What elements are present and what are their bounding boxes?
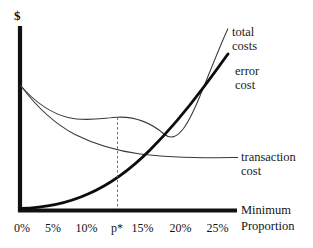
x-axis-title-line1: Minimum xyxy=(241,203,291,217)
series-label-error-cost-line1: error xyxy=(235,64,259,78)
x-tick-label-6: 25% xyxy=(203,222,232,235)
x-tick-label-optimum: p* xyxy=(106,222,128,235)
x-tick-label-2: 10% xyxy=(72,222,101,235)
series-label-transaction-cost-line1: transaction xyxy=(241,150,296,164)
series-error-cost-curve xyxy=(21,54,229,209)
x-axis-title-line2: Proportion xyxy=(241,219,294,233)
x-tick-label-0: 0% xyxy=(10,222,34,235)
x-tick-label-4: 15% xyxy=(128,222,157,235)
x-tick-label-5: 20% xyxy=(166,222,195,235)
series-label-total-costs-line2: costs xyxy=(232,39,257,53)
series-label-transaction-cost-line2: cost xyxy=(241,164,261,178)
y-axis-label: $ xyxy=(14,8,21,24)
series-label-total-costs-line1: total xyxy=(232,25,254,39)
cost-tradeoff-figure: $ total costs error cost transaction cos… xyxy=(0,0,313,248)
series-label-error-cost-line2: cost xyxy=(235,78,255,92)
series-total-costs-curve xyxy=(21,29,229,138)
x-tick-label-1: 5% xyxy=(41,222,65,235)
